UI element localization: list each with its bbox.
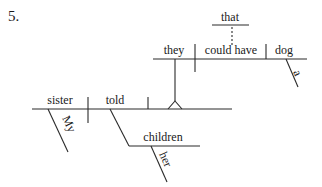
main-clause: sister told My children her [32,93,232,182]
clause-object: dog [275,43,293,57]
modifier-a: a [290,68,305,79]
problem-number: 5. [8,8,19,24]
modifier-my: My [59,113,79,134]
clause-subject: they [164,43,185,57]
pedestal [168,101,182,109]
conjunction-that: that [221,10,240,24]
noun-clause: that they could have dog a [153,10,307,87]
indirect-object: children [143,130,182,144]
main-verb: told [106,93,125,107]
sentence-diagram: 5. that they could have dog a sister tol… [0,0,322,187]
modifier-her: her [156,150,175,170]
main-subject: sister [47,93,72,107]
clause-verb: could have [205,43,257,57]
indirect-object-slant [110,109,129,146]
